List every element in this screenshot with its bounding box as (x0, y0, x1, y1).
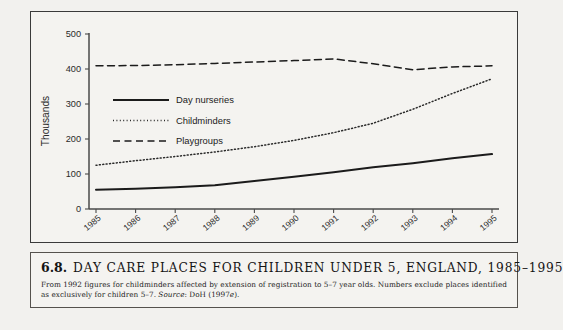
chart-legend: Day nurseriesChildmindersPlaygroups (113, 94, 234, 146)
y-tick-label: 400 (66, 64, 81, 74)
y-tick-label: 300 (66, 99, 81, 109)
x-tick-label: 1990 (280, 213, 301, 233)
caption-note-part1: From 1992 figures for childminders affec… (41, 280, 507, 299)
day-care-line-chart: 0100200300400500 19851986198719881989199… (31, 12, 517, 242)
x-tick-label: 1992 (359, 213, 380, 233)
x-tick-label: 1985 (82, 213, 103, 233)
x-tick-label: 1994 (438, 213, 459, 233)
chart-frame: 0100200300400500 19851986198719881989199… (30, 11, 518, 243)
y-axis-ticks: 0100200300400500 (66, 29, 89, 214)
series-line-childminders (96, 79, 492, 165)
legend-label-playgroups: Playgroups (176, 135, 223, 146)
figure-caption-box: 6.8. DAY CARE PLACES FOR CHILDREN UNDER … (30, 252, 518, 308)
x-axis-ticks: 1985198619871988198919901991199219931994… (82, 209, 499, 233)
y-tick-label: 100 (66, 169, 81, 179)
x-tick-label: 1987 (161, 213, 182, 233)
caption-source-label: Source (158, 290, 184, 299)
x-tick-label: 1991 (319, 213, 340, 233)
x-tick-label: 1986 (121, 213, 142, 233)
legend-label-childminders: Childminders (176, 115, 231, 126)
y-tick-label: 500 (66, 29, 81, 39)
y-axis-title: Thousands (40, 96, 51, 146)
x-tick-label: 1993 (399, 213, 420, 233)
legend-label-day-nurseries: Day nurseries (176, 94, 234, 105)
chart-series-group (96, 59, 492, 190)
caption-note-part2: : DoH (1997 (184, 290, 229, 299)
caption-title-row: 6.8. DAY CARE PLACES FOR CHILDREN UNDER … (41, 260, 507, 275)
caption-title: DAY CARE PLACES FOR CHILDREN UNDER 5, EN… (73, 261, 563, 275)
series-line-playgroups (96, 59, 492, 70)
x-tick-label: 1989 (240, 213, 261, 233)
y-tick-label: 200 (66, 134, 81, 144)
caption-note: From 1992 figures for childminders affec… (41, 280, 507, 300)
y-tick-label: 0 (76, 204, 81, 214)
series-line-day-nurseries (96, 154, 492, 190)
x-tick-label: 1995 (478, 213, 499, 233)
x-tick-label: 1988 (201, 213, 222, 233)
caption-number: 6.8. (41, 260, 67, 275)
caption-note-part3: ). (234, 290, 239, 299)
